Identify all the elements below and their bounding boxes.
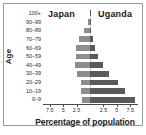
y-axis-tick-labels: 0–910–1920–2930–3940–4950–5960–6970–7980… [16, 9, 42, 104]
y-tick-label-09: 0–9 [32, 95, 41, 104]
x-axis-title: Percentage of population [26, 117, 144, 127]
bar-uganda-1019 [90, 88, 125, 94]
x-tick-label-right-2_5: 2.5 [100, 107, 108, 113]
bar-japan-6069 [76, 45, 90, 51]
x-tick-label-left-5: 5 [62, 107, 65, 113]
pyramid-row [43, 19, 137, 25]
y-tick-label-1019: 10–19 [26, 87, 41, 96]
x-axis-line [43, 104, 138, 105]
y-tick-label-2029: 20–29 [26, 78, 41, 87]
bar-uganda-4049 [90, 62, 103, 68]
bar-uganda-09 [90, 97, 135, 103]
pyramid-row [43, 28, 137, 34]
bar-japan-2029 [81, 80, 90, 86]
pyramid-row [43, 71, 137, 77]
plot-area [43, 9, 137, 104]
y-tick-label-9099: 90–99 [26, 18, 41, 27]
y-tick-label-100+: 100+ [29, 9, 41, 18]
y-tick-label-5059: 50–59 [26, 52, 41, 61]
x-tick-label-left-7_5: 7.5 [46, 107, 54, 113]
y-tick-label-6069: 60–69 [26, 44, 41, 53]
x-tick-label-right-7_5: 7.5 [127, 107, 135, 113]
y-tick-label-8089: 80–89 [26, 26, 41, 35]
pyramid-row [43, 62, 137, 68]
y-tick-label-7079: 70–79 [26, 35, 41, 44]
bar-japan-5059 [76, 54, 90, 60]
bar-uganda-5059 [90, 54, 98, 60]
y-tick-label-3039: 30–39 [26, 69, 41, 78]
bar-uganda-3039 [90, 71, 109, 77]
pyramid-row [43, 88, 137, 94]
bar-uganda-7079 [90, 36, 93, 42]
x-tick-label-right-5: 5 [115, 107, 118, 113]
bar-japan-4049 [75, 62, 90, 68]
y-axis-title: Age [4, 40, 13, 74]
pyramid-row [43, 97, 137, 103]
population-pyramid-figure: Age 0–910–1920–2930–3940–4950–5960–6970–… [0, 0, 146, 135]
x-tick-label-left-2_5: 2.5 [73, 107, 81, 113]
pyramid-row [43, 80, 137, 86]
bar-japan-7079 [79, 36, 90, 42]
bar-uganda-6069 [90, 45, 95, 51]
pyramid-row [43, 10, 137, 16]
pyramid-row [43, 54, 137, 60]
pyramid-row [43, 36, 137, 42]
bar-uganda-2029 [90, 80, 118, 86]
bar-japan-3039 [77, 71, 90, 77]
y-tick-label-4049: 40–49 [26, 61, 41, 70]
bar-japan-1019 [81, 88, 90, 94]
bar-uganda-8089 [90, 28, 91, 34]
pyramid-row [43, 45, 137, 51]
bar-japan-09 [82, 97, 90, 103]
